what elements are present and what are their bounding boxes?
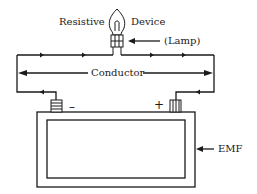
negative-terminal [51, 100, 62, 112]
circuit-drawing [0, 0, 257, 194]
right-wire [176, 55, 214, 100]
positive-terminal [170, 100, 181, 112]
circuit-diagram: Resistive Device (Lamp) Conductor – + EM… [0, 0, 257, 194]
emf-label: EMF [218, 144, 242, 154]
left-wire [17, 55, 56, 100]
battery-inner [47, 120, 185, 178]
resistive-label: Resistive [59, 17, 105, 27]
conductor-label: Conductor [91, 68, 144, 78]
device-label: Device [131, 17, 165, 27]
lamp-label: (Lamp) [164, 36, 200, 46]
negative-label: – [69, 101, 75, 113]
battery-outer [37, 112, 195, 187]
lamp-icon [109, 9, 124, 55]
positive-label: + [154, 99, 164, 111]
